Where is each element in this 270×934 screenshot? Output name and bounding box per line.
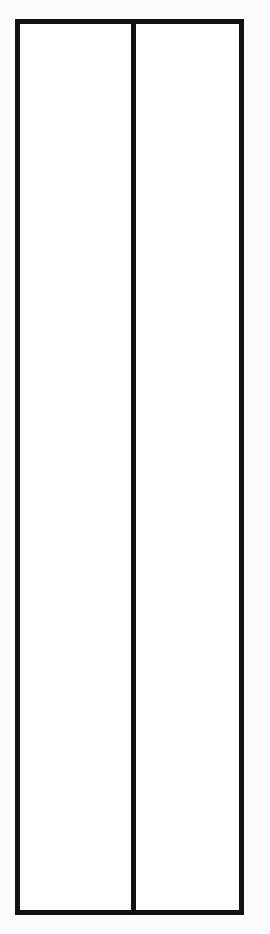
diagram-svg bbox=[0, 0, 270, 934]
outer-rectangle bbox=[18, 22, 242, 913]
diagram-canvas bbox=[0, 0, 270, 934]
